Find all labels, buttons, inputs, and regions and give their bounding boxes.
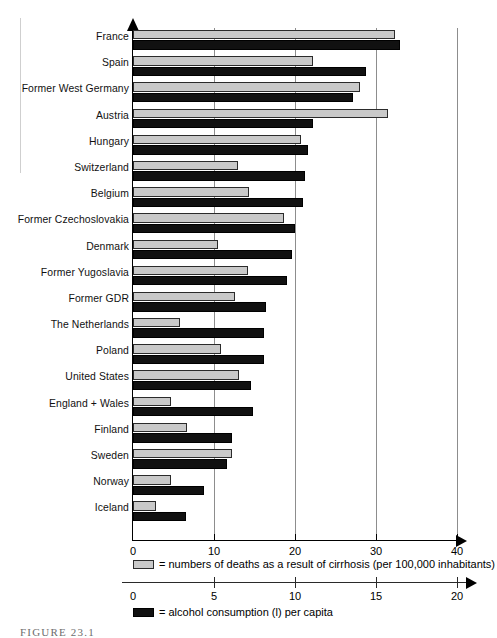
- bar-alcohol: [133, 171, 305, 180]
- bar-deaths: [133, 292, 235, 301]
- bar-alcohol: [133, 67, 366, 76]
- row-label-former-yugoslavia: Former Yugoslavia: [0, 267, 129, 278]
- chart-row: Austria: [0, 107, 497, 133]
- bar-alcohol: [133, 40, 400, 49]
- bar-alcohol: [133, 355, 264, 364]
- alcohol-tick-10: [295, 577, 296, 588]
- row-label-austria: Austria: [0, 110, 129, 121]
- deaths-tick-label-10: 10: [208, 545, 220, 557]
- row-label-finland: Finland: [0, 424, 129, 435]
- row-label-united-states: United States: [0, 371, 129, 382]
- chart-row: The Netherlands: [0, 316, 497, 342]
- bar-deaths: [133, 475, 171, 484]
- chart-row: Switzerland: [0, 159, 497, 185]
- bar-deaths: [133, 109, 388, 118]
- bar-alcohol: [133, 433, 232, 442]
- chart-row: Former Yugoslavia: [0, 264, 497, 290]
- legend-alcohol-label: = alcohol consumption (l) per capita: [159, 606, 333, 618]
- row-label-denmark: Denmark: [0, 241, 129, 252]
- deaths-tick-label-40: 40: [451, 545, 463, 557]
- row-label-sweden: Sweden: [0, 450, 129, 461]
- chart-row: Poland: [0, 342, 497, 368]
- bar-deaths: [133, 423, 187, 432]
- row-label-former-west-germany: Former West Germany: [0, 83, 129, 94]
- alcohol-tick-20: [457, 577, 458, 588]
- alcohol-tick-5: [214, 577, 215, 588]
- row-label-poland: Poland: [0, 345, 129, 356]
- chart-row: Former GDR: [0, 290, 497, 316]
- bar-deaths: [133, 370, 239, 379]
- row-label-hungary: Hungary: [0, 136, 129, 147]
- row-label-spain: Spain: [0, 57, 129, 68]
- chart-row: England + Wales: [0, 395, 497, 421]
- chart-row: Belgium: [0, 185, 497, 211]
- row-label-switzerland: Switzerland: [0, 162, 129, 173]
- legend-deaths-label: = numbers of deaths as a result of cirrh…: [159, 558, 495, 570]
- bar-deaths: [133, 344, 221, 353]
- legend-swatch-deaths-icon: [133, 560, 154, 569]
- row-label-former-czechoslovakia: Former Czechoslovakia: [0, 214, 129, 225]
- bar-deaths: [133, 56, 313, 65]
- chart-row: Former West Germany: [0, 80, 497, 106]
- bar-alcohol: [133, 486, 204, 495]
- row-label-france: France: [0, 31, 129, 42]
- bar-deaths: [133, 449, 232, 458]
- row-label-the-netherlands: The Netherlands: [0, 319, 129, 330]
- alcohol-tick-label-5: 5: [211, 590, 217, 602]
- alcohol-tick-label-0: 0: [130, 590, 136, 602]
- bar-alcohol: [133, 381, 251, 390]
- deaths-tick-20: [295, 534, 296, 541]
- bar-alcohol: [133, 224, 295, 233]
- alcohol-tick-label-20: 20: [451, 590, 463, 602]
- bar-deaths: [133, 501, 156, 510]
- bar-alcohol: [133, 93, 353, 102]
- row-label-norway: Norway: [0, 476, 129, 487]
- chart-row: France: [0, 28, 497, 54]
- row-label-iceland: Iceland: [0, 502, 129, 513]
- chart-row: Former Czechoslovakia: [0, 211, 497, 237]
- bar-alcohol: [133, 276, 287, 285]
- deaths-tick-40: [457, 534, 458, 541]
- chart-row: Sweden: [0, 447, 497, 473]
- alcohol-tick-label-15: 15: [370, 590, 382, 602]
- row-label-former-gdr: Former GDR: [0, 293, 129, 304]
- chart-row: Norway: [0, 473, 497, 499]
- bar-deaths: [133, 135, 301, 144]
- bar-alcohol: [133, 145, 308, 154]
- bar-deaths: [133, 318, 180, 327]
- bar-alcohol: [133, 119, 313, 128]
- chart-row: Spain: [0, 54, 497, 80]
- chart-row: Finland: [0, 421, 497, 447]
- deaths-tick-30: [376, 534, 377, 541]
- alcohol-tick-label-10: 10: [289, 590, 301, 602]
- legend-swatch-alcohol-icon: [133, 608, 154, 617]
- bar-alcohol: [133, 407, 253, 416]
- alcohol-tick-15: [376, 577, 377, 588]
- deaths-tick-label-30: 30: [370, 545, 382, 557]
- bar-rows: FranceSpainFormer West GermanyAustriaHun…: [0, 28, 497, 526]
- bar-alcohol: [133, 512, 186, 521]
- bar-deaths: [133, 266, 248, 275]
- bar-deaths: [133, 187, 249, 196]
- row-label-belgium: Belgium: [0, 188, 129, 199]
- deaths-tick-label-0: 0: [130, 545, 136, 557]
- bar-deaths: [133, 82, 360, 91]
- deaths-tick-label-20: 20: [289, 545, 301, 557]
- bar-alcohol: [133, 328, 264, 337]
- bar-alcohol: [133, 198, 303, 207]
- bar-alcohol: [133, 302, 266, 311]
- bar-deaths: [133, 397, 171, 406]
- deaths-tick-10: [214, 534, 215, 541]
- bar-deaths: [133, 161, 238, 170]
- chart-row: Iceland: [0, 499, 497, 525]
- bar-alcohol: [133, 250, 292, 259]
- row-label-england-wales: England + Wales: [0, 398, 129, 409]
- bar-deaths: [133, 240, 218, 249]
- figure-caption: FIGURE 23.1: [20, 626, 95, 638]
- bar-alcohol: [133, 459, 227, 468]
- legend-alcohol: = alcohol consumption (l) per capita: [133, 606, 333, 618]
- bar-deaths: [133, 213, 284, 222]
- chart-row: Denmark: [0, 238, 497, 264]
- bar-deaths: [133, 30, 395, 39]
